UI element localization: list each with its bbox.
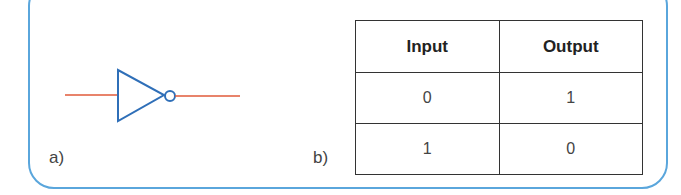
cell-input: 0 (356, 73, 500, 124)
header-output: Output (499, 21, 643, 73)
table-header-row: Input Output (356, 21, 643, 73)
label-a: a) (49, 148, 64, 168)
header-input: Input (356, 21, 500, 73)
table-row: 0 1 (356, 73, 643, 124)
cell-output: 1 (499, 73, 643, 124)
cell-input: 1 (356, 124, 500, 175)
table-row: 1 0 (356, 124, 643, 175)
not-gate-icon (60, 64, 250, 124)
inversion-bubble (165, 91, 175, 101)
label-b: b) (313, 148, 328, 168)
gate-triangle (118, 70, 164, 121)
cell-output: 0 (499, 124, 643, 175)
truth-table: Input Output 0 1 1 0 (355, 20, 643, 175)
